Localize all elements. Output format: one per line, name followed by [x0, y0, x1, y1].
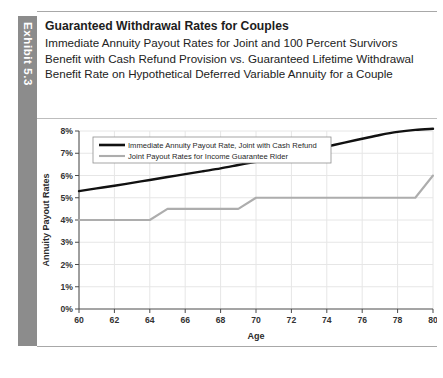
- legend-label: Joint Payout Rates for Income Guarantee …: [128, 152, 288, 161]
- y-axis-title: Annuity Payout Rates: [41, 173, 51, 266]
- chart-plot-area: 0%1%2%3%4%5%6%7%8%6062646668707274767880…: [37, 121, 437, 343]
- x-tick-label: 74: [322, 315, 332, 325]
- page-title: Guaranteed Withdrawal Rates for Couples: [45, 19, 430, 34]
- y-tick-label: 1%: [61, 282, 74, 292]
- divider-top: [37, 11, 437, 12]
- y-tick-label: 7%: [61, 148, 74, 158]
- x-tick-label: 60: [74, 315, 84, 325]
- x-tick-label: 64: [145, 315, 155, 325]
- y-tick-label: 0%: [61, 304, 74, 314]
- title-block: Guaranteed Withdrawal Rates for Couples …: [45, 19, 430, 82]
- divider-bottom: [37, 346, 437, 347]
- y-tick-label: 8%: [61, 126, 74, 136]
- legend-label: Immediate Annuity Payout Rate, Joint wit…: [128, 141, 317, 150]
- y-tick-label: 4%: [61, 215, 74, 225]
- page-subtitle: Immediate Annuity Payout Rates for Joint…: [45, 35, 430, 82]
- exhibit-tab: Exhibit 5.3: [18, 16, 37, 346]
- exhibit-tab-label: Exhibit 5.3: [22, 22, 34, 86]
- line-chart: 0%1%2%3%4%5%6%7%8%6062646668707274767880…: [37, 121, 437, 343]
- x-tick-label: 80: [428, 315, 437, 325]
- x-tick-label: 66: [180, 315, 190, 325]
- x-tick-label: 72: [287, 315, 297, 325]
- x-tick-label: 68: [216, 315, 226, 325]
- x-tick-label: 76: [357, 315, 367, 325]
- exhibit-content: Guaranteed Withdrawal Rates for Couples …: [37, 11, 439, 360]
- y-tick-label: 6%: [61, 171, 74, 181]
- chart-legend[interactable]: Immediate Annuity Payout Rate, Joint wit…: [93, 137, 331, 163]
- x-tick-label: 78: [393, 315, 403, 325]
- x-axis-title: Age: [247, 331, 264, 341]
- x-tick-label: 62: [110, 315, 120, 325]
- exhibit-page: Exhibit 5.3 Guaranteed Withdrawal Rates …: [0, 0, 443, 378]
- y-tick-label: 2%: [61, 260, 74, 270]
- divider-middle: [37, 118, 437, 119]
- y-tick-label: 5%: [61, 193, 74, 203]
- x-tick-label: 70: [251, 315, 261, 325]
- y-tick-label: 3%: [61, 237, 74, 247]
